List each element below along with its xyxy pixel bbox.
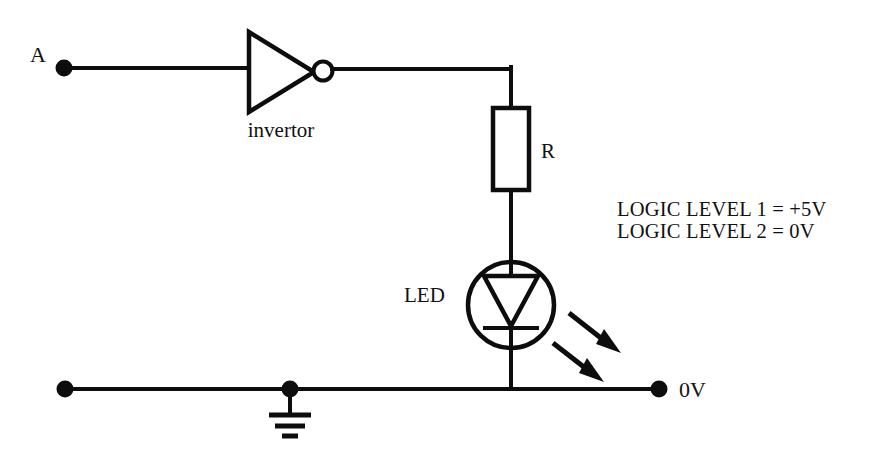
emission-ray-upper bbox=[569, 313, 621, 353]
circuit-canvas: A invertor R LED 0V LOGIC LEVEL 1 = +5V … bbox=[0, 0, 886, 469]
invertor-triangle bbox=[249, 32, 314, 112]
circuit-diagram: A invertor R LED 0V LOGIC LEVEL 1 = +5V … bbox=[0, 0, 886, 469]
not-gate-icon[interactable] bbox=[249, 32, 333, 112]
input-branch bbox=[56, 60, 250, 77]
ray-upper-head bbox=[596, 329, 621, 353]
light-emission-arrows-icon bbox=[553, 313, 621, 382]
output-branch bbox=[332, 67, 511, 108]
ground-terminal-label: 0V bbox=[679, 377, 706, 402]
logic-level-note-line1: LOGIC LEVEL 1 = +5V bbox=[617, 198, 827, 220]
resistor-icon[interactable] bbox=[493, 108, 529, 190]
led-anode-triangle bbox=[484, 276, 538, 326]
resistor-label: R bbox=[541, 139, 555, 163]
led-icon[interactable] bbox=[468, 262, 554, 350]
input-terminal-label: A bbox=[30, 42, 46, 67]
junction-dot-icon-rail-left[interactable] bbox=[57, 381, 74, 398]
ground-rail bbox=[57, 381, 668, 398]
logic-level-note-line2: LOGIC LEVEL 2 = 0V bbox=[617, 220, 815, 242]
invertor-label: invertor bbox=[248, 118, 314, 142]
ray-lower-head bbox=[579, 358, 604, 382]
inversion-bubble-icon bbox=[314, 62, 333, 81]
junction-dot-icon-output-0v[interactable] bbox=[651, 381, 668, 398]
emission-ray-lower bbox=[553, 343, 604, 382]
earth-ground-icon[interactable] bbox=[269, 389, 311, 436]
resistor-body bbox=[493, 108, 529, 190]
led-label: LED bbox=[404, 283, 445, 307]
